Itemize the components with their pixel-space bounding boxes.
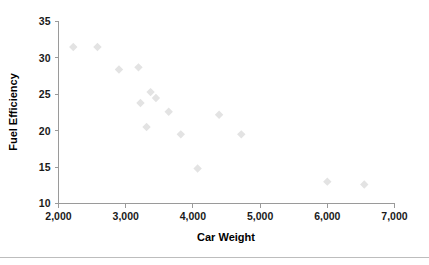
- data-point: [69, 43, 77, 51]
- x-tick-label-5000: 5,000: [247, 210, 273, 222]
- data-point: [136, 99, 144, 107]
- x-tick-label-6000: 6,000: [314, 210, 340, 222]
- data-point: [323, 177, 331, 185]
- y-tick-group: [55, 22, 59, 204]
- x-tick-group: [59, 204, 395, 208]
- y-tick-label-35: 35: [39, 15, 51, 27]
- y-axis-group: 101520253035 Fuel Efficiency: [7, 15, 59, 209]
- data-point: [360, 180, 368, 188]
- data-point: [134, 63, 142, 71]
- data-point: [93, 43, 101, 51]
- data-point: [115, 65, 123, 73]
- data-point: [177, 130, 185, 138]
- y-tick-label-10: 10: [39, 197, 51, 209]
- data-point: [152, 94, 160, 102]
- x-tick-label-7000: 7,000: [381, 210, 407, 222]
- scatter-plot-figure: 101520253035 Fuel Efficiency 2,0003,0004…: [0, 0, 429, 265]
- data-point: [215, 110, 223, 118]
- y-tick-label-group: 101520253035: [39, 15, 51, 209]
- data-point: [237, 130, 245, 138]
- x-tick-label-4000: 4,000: [180, 210, 206, 222]
- x-tick-label-2000: 2,000: [45, 210, 71, 222]
- y-axis-title: Fuel Efficiency: [7, 72, 19, 151]
- data-point: [146, 88, 154, 96]
- plot-canvas: 101520253035 Fuel Efficiency 2,0003,0004…: [0, 0, 429, 265]
- y-tick-label-15: 15: [39, 161, 51, 173]
- data-point: [142, 123, 150, 131]
- y-tick-label-25: 25: [39, 88, 51, 100]
- data-point-group: [69, 43, 368, 189]
- x-tick-label-3000: 3,000: [113, 210, 139, 222]
- x-tick-label-group: 2,0003,0004,0005,0006,0007,000: [45, 210, 407, 222]
- data-point: [165, 108, 173, 116]
- data-point: [193, 164, 201, 172]
- y-tick-label-20: 20: [39, 125, 51, 137]
- x-axis-group: 2,0003,0004,0005,0006,0007,000 Car Weigh…: [45, 204, 407, 244]
- y-tick-label-30: 30: [39, 52, 51, 64]
- x-axis-title: Car Weight: [197, 231, 255, 243]
